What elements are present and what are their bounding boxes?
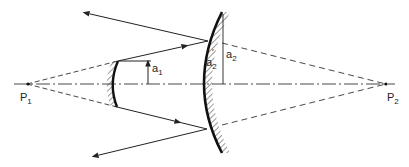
ray-upper-outgoing [86,13,208,41]
p1-point [26,82,29,85]
p1-label: P1 [20,91,32,106]
large-mirror-hatch [204,12,230,153]
two-mirror-optics-diagram: P1 P2 a1 a2 a2 ′ [0,0,409,167]
ray-lower-outgoing [95,129,207,156]
p2-point [384,82,387,85]
virtual-ray-p2-lower [222,84,386,125]
ray-lower-incoming [117,107,207,129]
p2-label: P2 [387,91,399,106]
virtual-ray-p2-upper [222,43,386,84]
ray-upper-incoming [118,41,208,61]
virtual-ray-p1-lower [27,84,117,107]
virtual-ray-p1-upper [27,61,118,84]
a2-label: a2 [226,48,237,63]
a1-label: a1 [152,62,163,77]
